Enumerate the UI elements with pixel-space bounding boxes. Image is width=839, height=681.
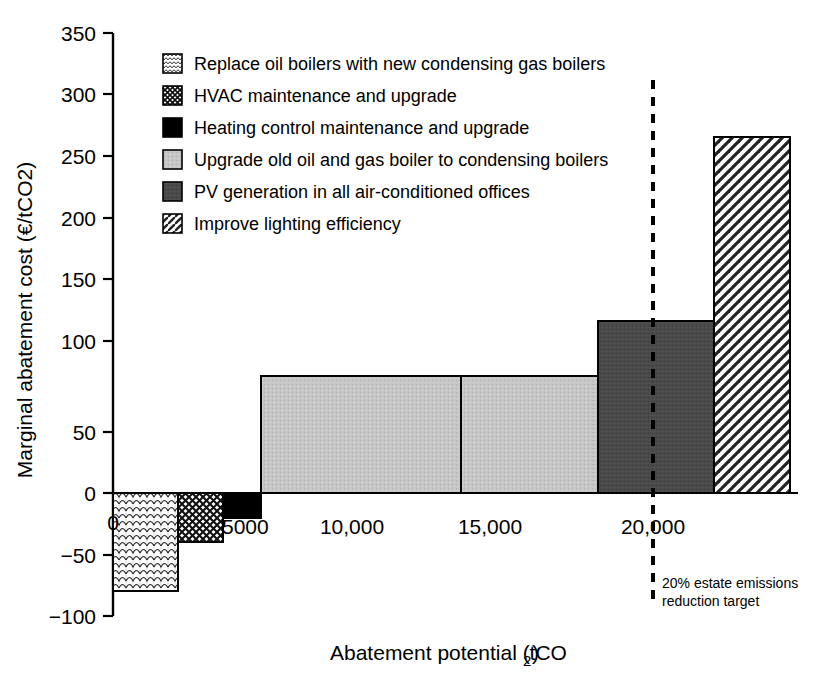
y-tick-label-350: 350 (61, 22, 96, 45)
bar-upgrade-old-boilers-cont[interactable] (461, 376, 598, 493)
legend-item-improve-lighting[interactable]: Improve lighting efficiency (163, 214, 401, 234)
x-tick-label-5000: 5000 (222, 515, 269, 538)
y-tick-label-300: 300 (61, 83, 96, 106)
solid-black-swatch-icon (163, 118, 182, 137)
dark-gray-swatch-icon (163, 182, 182, 201)
y-axis-title-group: Marginal abatement cost (€/tCO2) (13, 162, 36, 478)
y-axis: 350 300 250 200 150 100 50 0 −50 −100 (49, 22, 113, 628)
legend-label-1: HVAC maintenance and upgrade (194, 86, 457, 106)
x-tick-label-10000: 10,000 (320, 515, 384, 538)
dense-crosshatch-swatch-icon (163, 86, 182, 105)
target-annotation-line2: reduction target (662, 593, 759, 609)
legend-item-hvac-maintenance[interactable]: HVAC maintenance and upgrade (163, 86, 457, 106)
bars-group (113, 137, 790, 591)
y-tick-label-150: 150 (61, 268, 96, 291)
y-tick-label-100: 100 (61, 330, 96, 353)
legend: Replace oil boilers with new condensing … (163, 54, 608, 234)
macc-chart: 350 300 250 200 150 100 50 0 −50 −100 (0, 0, 839, 681)
y-tick-label-neg50: −50 (60, 544, 96, 567)
y-tick-label-200: 200 (61, 207, 96, 230)
x-tick-label-0: 0 (107, 511, 119, 534)
target-annotation-line1: 20% estate emissions (662, 575, 798, 591)
bar-pv-generation[interactable] (598, 321, 714, 493)
bar-replace-oil-boilers[interactable] (113, 493, 178, 591)
legend-item-heating-control[interactable]: Heating control maintenance and upgrade (163, 118, 529, 138)
diagonal-stripes-swatch-icon (163, 214, 182, 233)
legend-label-0: Replace oil boilers with new condensing … (194, 54, 605, 74)
y-tick-label-50: 50 (73, 421, 96, 444)
y-axis-title: Marginal abatement cost (€/tCO2) (13, 162, 36, 478)
x-tick-label-20000: 20,000 (621, 515, 685, 538)
x-tick-label-15000: 15,000 (458, 515, 522, 538)
y-tick-label-250: 250 (61, 145, 96, 168)
legend-label-2: Heating control maintenance and upgrade (194, 118, 529, 138)
legend-item-upgrade-old-boilers[interactable]: Upgrade old oil and gas boiler to conden… (163, 150, 608, 170)
bar-hvac-maintenance[interactable] (178, 493, 223, 542)
target-annotation: 20% estate emissions reduction target (662, 575, 798, 609)
scale-crosshatch-swatch-icon (163, 54, 182, 73)
chart-canvas: 350 300 250 200 150 100 50 0 −50 −100 (0, 0, 839, 681)
legend-label-4: PV generation in all air-conditioned off… (194, 182, 530, 202)
light-gray-swatch-icon (163, 150, 182, 169)
x-axis-title-tail: ) (532, 641, 539, 664)
legend-label-3: Upgrade old oil and gas boiler to conden… (194, 150, 608, 170)
bar-upgrade-old-boilers[interactable] (261, 376, 461, 493)
x-axis-title-subscript: 2 (523, 652, 531, 669)
y-tick-label-neg100: −100 (49, 605, 96, 628)
x-axis-title-group: Abatement potential (tCO 2 ) (330, 641, 567, 669)
bar-improve-lighting[interactable] (714, 137, 790, 493)
legend-item-replace-oil-boilers[interactable]: Replace oil boilers with new condensing … (163, 54, 605, 74)
legend-item-pv-generation[interactable]: PV generation in all air-conditioned off… (163, 182, 530, 202)
y-tick-label-0: 0 (84, 482, 96, 505)
legend-label-5: Improve lighting efficiency (194, 214, 401, 234)
